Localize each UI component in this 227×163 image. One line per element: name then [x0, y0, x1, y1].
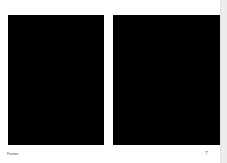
right-image-panel — [113, 15, 221, 145]
footer-label: Footer — [7, 151, 19, 156]
image-detail — [45, 58, 46, 59]
page-number: 7 — [205, 150, 208, 156]
vertical-scrollbar[interactable] — [220, 0, 227, 163]
image-detail — [48, 132, 49, 133]
left-image-panel — [8, 15, 104, 145]
document-page: Footer 7 — [0, 0, 220, 163]
